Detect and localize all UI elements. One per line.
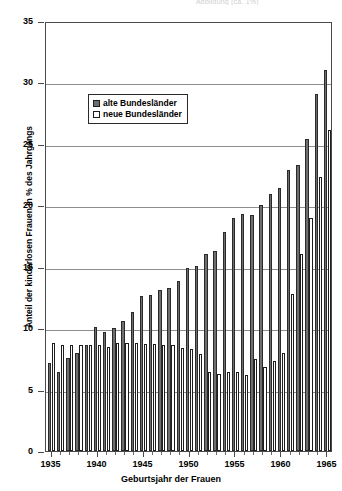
y-tick-label-10: 10	[0, 323, 33, 333]
bar-neue-1962	[300, 254, 303, 451]
bar-alte-1942	[112, 328, 115, 451]
x-tick-minor-1951	[198, 452, 199, 455]
bar-alte-1964	[315, 94, 318, 452]
bar-neue-1952	[208, 372, 211, 451]
top-clipped-caption: Abbildung (ca. 1%)	[196, 0, 259, 5]
bar-neue-1951	[199, 354, 202, 451]
x-tick-minor-1946	[152, 452, 153, 455]
bar-alte-1954	[223, 232, 226, 451]
bar-neue-1949	[181, 348, 184, 451]
x-tick-minor-1944	[133, 452, 134, 455]
x-tick-minor-1963	[308, 452, 309, 455]
bar-alte-1951	[195, 266, 198, 452]
y-tick-30	[38, 83, 44, 84]
y-tick-label-15: 15	[0, 262, 33, 272]
y-tick-label-35: 35	[0, 16, 33, 26]
bar-alte-1935	[48, 363, 51, 451]
bar-neue-1955	[236, 372, 239, 451]
x-tick-label-1935: 1935	[31, 459, 71, 469]
bar-neue-1942	[116, 343, 119, 451]
y-tick-15	[38, 268, 44, 269]
bar-neue-1950	[190, 349, 193, 451]
bar-neue-1954	[227, 372, 230, 451]
bar-neue-1957	[254, 359, 257, 451]
x-tick-minor-1936	[60, 452, 61, 455]
bar-neue-1940	[98, 345, 101, 451]
x-tick-minor-1938	[78, 452, 79, 455]
x-tick-minor-1953	[216, 452, 217, 455]
bar-alte-1958	[259, 205, 262, 451]
bar-neue-1938	[79, 345, 82, 451]
x-tick-minor-1962	[299, 452, 300, 455]
x-tick-label-1965: 1965	[306, 459, 342, 469]
y-tick-label-20: 20	[0, 200, 33, 210]
bar-neue-1943	[125, 343, 128, 451]
bar-alte-1950	[186, 268, 189, 451]
x-tick-minor-1947	[161, 452, 162, 455]
y-tick-label-30: 30	[0, 77, 33, 87]
bar-alte-1939	[85, 345, 88, 451]
bar-alte-1959	[269, 194, 272, 451]
bar-neue-1936	[61, 345, 64, 451]
legend-item-alte: alte Bundesländer	[93, 98, 182, 109]
bar-neue-1965	[328, 130, 331, 451]
bar-neue-1944	[135, 343, 138, 451]
legend: alte Bundesländer neue Bundesländer	[88, 94, 188, 124]
chart-figure: Abbildung (ca. 1%) Anteil der kinderlose…	[0, 0, 342, 491]
x-tick-minor-1937	[69, 452, 70, 455]
legend-swatch-icon-alte	[93, 100, 100, 107]
y-tick-5	[38, 391, 44, 392]
y-tick-25	[38, 145, 44, 146]
legend-label-neue: neue Bundesländer	[103, 109, 182, 120]
x-tick-minor-1957	[253, 452, 254, 455]
x-tick-label-1960: 1960	[260, 459, 300, 469]
bar-alte-1946	[149, 295, 152, 451]
x-tick-1945	[143, 452, 144, 457]
bar-alte-1965	[324, 70, 327, 451]
bar-alte-1940	[94, 327, 97, 451]
bar-neue-1937	[70, 345, 73, 451]
bar-neue-1964	[319, 177, 322, 451]
bar-neue-1935	[52, 343, 55, 451]
y-tick-label-5: 5	[0, 385, 33, 395]
x-tick-minor-1954	[225, 452, 226, 455]
x-tick-1955	[234, 452, 235, 457]
x-tick-label-1950: 1950	[169, 459, 209, 469]
y-tick-label-25: 25	[0, 139, 33, 149]
gridline-25	[46, 146, 331, 147]
bar-neue-1945	[144, 344, 147, 451]
gridline-30	[46, 84, 331, 85]
bar-alte-1936	[57, 372, 60, 451]
x-tick-label-1940: 1940	[77, 459, 117, 469]
x-tick-minor-1958	[262, 452, 263, 455]
bar-alte-1961	[287, 170, 290, 451]
x-tick-1940	[97, 452, 98, 457]
bar-alte-1937	[66, 358, 69, 451]
y-tick-label-0: 0	[0, 446, 33, 456]
bar-alte-1948	[167, 288, 170, 451]
bar-alte-1962	[296, 165, 299, 451]
x-tick-minor-1961	[290, 452, 291, 455]
bar-neue-1956	[245, 375, 248, 451]
bar-neue-1939	[89, 345, 92, 451]
x-tick-minor-1939	[87, 452, 88, 455]
x-tick-minor-1941	[106, 452, 107, 455]
bar-alte-1949	[177, 281, 180, 451]
bar-alte-1953	[213, 251, 216, 451]
bar-alte-1938	[75, 353, 78, 451]
bar-alte-1945	[140, 296, 143, 451]
bar-neue-1959	[273, 361, 276, 451]
bar-alte-1947	[158, 290, 161, 451]
x-tick-minor-1949	[179, 452, 180, 455]
x-tick-minor-1959	[271, 452, 272, 455]
legend-swatch-icon-neue	[93, 111, 100, 118]
bar-alte-1952	[204, 254, 207, 451]
y-tick-20	[38, 206, 44, 207]
bar-alte-1960	[278, 188, 281, 451]
x-tick-label-1955: 1955	[214, 459, 254, 469]
y-tick-10	[38, 329, 44, 330]
bar-neue-1948	[171, 345, 174, 451]
x-axis-title: Geburtsjahr der Frauen	[0, 474, 342, 484]
bar-alte-1956	[241, 214, 244, 451]
x-tick-1960	[280, 452, 281, 457]
